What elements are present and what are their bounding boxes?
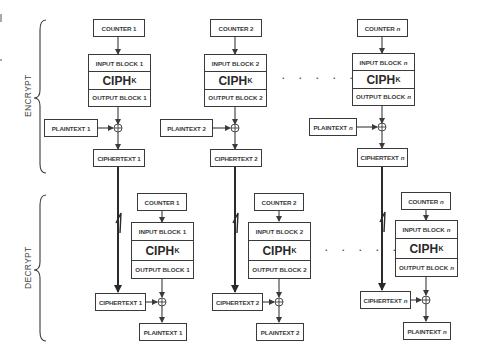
encrypt-ciphertext-2: CIPHERTEXT 2: [210, 149, 262, 167]
decrypt-ciphertext-n: CIPHERTEXTn: [360, 291, 411, 309]
counter-label: COUNTER 2: [219, 25, 254, 32]
xor-icon: [378, 123, 386, 131]
input-block-label: INPUT BLOCK 2: [249, 223, 310, 240]
decrypt-label: DECRYPT: [23, 249, 33, 289]
cipher-function-label: CIPHK: [353, 70, 414, 89]
plaintext-label: PLAINTEXT: [407, 328, 440, 335]
ctr-mode-diagram: ENCRYPT DECRYPT COUNTER 1 INPUT BLOCK 1 …: [0, 0, 483, 360]
ciphertext-label: CIPHERTEXT 1: [97, 155, 140, 162]
index-label: n: [401, 154, 405, 161]
plaintext-label: PLAINTEXT 2: [167, 125, 205, 132]
cipher-function-label: CIPHK: [89, 71, 150, 90]
ciphertext-label: CIPHERTEXT 2: [214, 155, 257, 162]
decrypt-plaintext-1: PLAINTEXT 1: [139, 323, 187, 341]
cipher-function-label: CIPHK: [396, 238, 457, 258]
decrypt-counter-2: COUNTER 2: [254, 193, 304, 211]
counter-label: COUNTER: [365, 25, 395, 32]
decrypt-ellipsis: . . . . .: [325, 243, 402, 253]
input-block-label: INPUT BLOCK 1: [89, 55, 150, 71]
encrypt-cipher-block-1: INPUT BLOCK 1 CIPHK OUTPUT BLOCK 1: [88, 54, 151, 107]
decrypt-cipher-block-1: INPUT BLOCK 1 CIPHK OUTPUT BLOCK 1: [131, 222, 194, 279]
encrypt-counter-2: COUNTER 2: [210, 19, 262, 37]
xor-icon: [231, 124, 239, 132]
ciphertext-label: CIPHERTEXT 1: [99, 299, 142, 306]
index-label: n: [404, 297, 408, 304]
counter-label: COUNTER 1: [102, 25, 137, 32]
decrypt-ciphertext-1: CIPHERTEXT 1: [95, 293, 146, 311]
plaintext-label: PLAINTEXT 1: [52, 125, 90, 132]
cipher-function-label: CIPHK: [132, 240, 193, 260]
index-label: n: [349, 124, 353, 131]
output-block-label: OUTPUT BLOCK 2: [205, 90, 266, 106]
xor-icon: [158, 298, 166, 306]
index-label: n: [443, 328, 447, 335]
encrypt-ciphertext-n: CIPHERTEXTn: [357, 148, 408, 167]
output-block-label: OUTPUT BLOCK 2: [249, 261, 310, 278]
ciphertext-label: CIPHERTEXT: [361, 154, 399, 161]
decrypt-brace: [34, 195, 46, 341]
encrypt-plaintext-1: PLAINTEXT 1: [44, 119, 98, 137]
counter-label: COUNTER 2: [262, 199, 297, 206]
input-block-label: INPUT BLOCKn: [353, 54, 414, 70]
xor-icon: [275, 298, 283, 306]
decrypt-plaintext-n: PLAINTEXTn: [403, 322, 451, 340]
cipher-function-label: CIPHK: [205, 71, 266, 90]
counter-label: COUNTER: [408, 198, 438, 205]
decrypt-ciphertext-2: CIPHERTEXT 2: [212, 293, 263, 311]
encrypt-counter-1: COUNTER 1: [93, 19, 145, 37]
ciphertext-label: CIPHERTEXT: [364, 297, 402, 304]
input-block-label: INPUT BLOCK 2: [205, 55, 266, 71]
ciphertext-label: CIPHERTEXT 2: [216, 299, 259, 306]
plaintext-label: PLAINTEXT 2: [261, 329, 299, 336]
encrypt-brace: [34, 20, 46, 173]
plaintext-label: PLAINTEXT 1: [144, 329, 182, 336]
encrypt-ellipsis: . . . . .: [282, 71, 359, 81]
encrypt-plaintext-n: PLAINTEXTn: [309, 118, 357, 136]
cipher-function-label: CIPHK: [249, 240, 310, 260]
output-block-label: OUTPUT BLOCK 1: [132, 261, 193, 278]
input-block-label: INPUT BLOCKn: [396, 221, 457, 238]
encrypt-counter-n: COUNTERn: [357, 19, 408, 37]
xor-icon: [422, 296, 430, 304]
decrypt-counter-n: COUNTERn: [401, 192, 451, 210]
xor-icon: [114, 124, 122, 132]
encrypt-cipher-block-n: INPUT BLOCKn CIPHK OUTPUT BLOCKn: [352, 53, 415, 106]
encrypt-ciphertext-1: CIPHERTEXT 1: [93, 149, 145, 167]
output-block-label: OUTPUT BLOCKn: [353, 89, 414, 105]
encrypt-label: ENCRYPT: [23, 77, 33, 117]
counter-label: COUNTER 1: [145, 199, 180, 206]
decrypt-counter-1: COUNTER 1: [137, 193, 187, 211]
encrypt-cipher-block-2: INPUT BLOCK 2 CIPHK OUTPUT BLOCK 2: [204, 54, 267, 107]
index-label: n: [440, 198, 444, 205]
decrypt-plaintext-2: PLAINTEXT 2: [256, 323, 304, 341]
encrypt-plaintext-2: PLAINTEXT 2: [160, 119, 213, 137]
decrypt-cipher-block-n: INPUT BLOCKn CIPHK OUTPUT BLOCKn: [395, 220, 458, 277]
plaintext-label: PLAINTEXT: [313, 124, 346, 131]
index-label: n: [397, 25, 401, 32]
decrypt-cipher-block-2: INPUT BLOCK 2 CIPHK OUTPUT BLOCK 2: [248, 222, 311, 279]
input-block-label: INPUT BLOCK 1: [132, 223, 193, 240]
output-block-label: OUTPUT BLOCK 1: [89, 90, 150, 106]
output-block-label: OUTPUT BLOCKn: [396, 259, 457, 276]
